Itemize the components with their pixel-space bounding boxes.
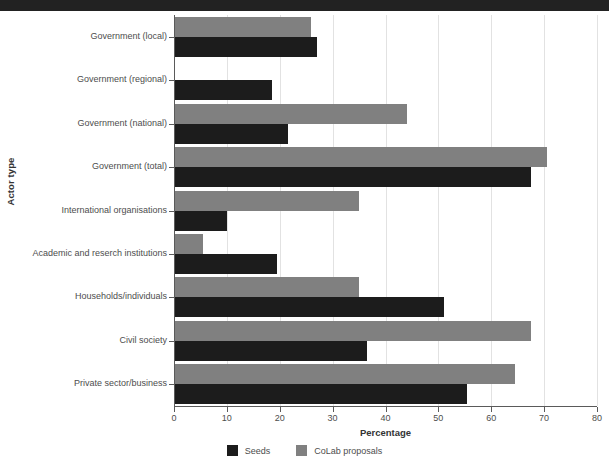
- y-tick-mark: [169, 80, 174, 81]
- legend-label: Seeds: [245, 446, 271, 456]
- bar-seeds: [174, 211, 227, 231]
- bar-colab: [174, 147, 547, 167]
- bar-colab: [174, 17, 311, 37]
- bar-seeds: [174, 254, 277, 274]
- gridline: [386, 15, 387, 406]
- bar-colab: [174, 277, 359, 297]
- x-tick-label: 60: [471, 413, 511, 423]
- x-tick-label: 50: [418, 413, 458, 423]
- category-label: Government (national): [0, 118, 167, 128]
- gridline: [491, 15, 492, 406]
- bar-seeds: [174, 341, 367, 361]
- y-tick-mark: [169, 297, 174, 298]
- x-axis-title: Percentage: [174, 427, 597, 438]
- bar-seeds: [174, 124, 288, 144]
- x-tick-mark: [333, 407, 334, 412]
- bar-colab: [174, 364, 515, 384]
- x-tick-label: 70: [524, 413, 564, 423]
- window-titlebar: [0, 0, 609, 11]
- legend-entry[interactable]: CoLab proposals: [296, 445, 382, 456]
- plot-area: [174, 15, 597, 406]
- bar-colab: [174, 234, 203, 254]
- category-label: Private sector/business: [0, 378, 167, 388]
- x-tick-mark: [544, 407, 545, 412]
- gridline: [597, 15, 598, 406]
- legend-entry[interactable]: Seeds: [227, 445, 271, 456]
- legend-swatch-icon: [296, 445, 307, 456]
- bar-seeds: [174, 384, 467, 404]
- y-axis-line: [174, 15, 175, 406]
- x-tick-mark: [386, 407, 387, 412]
- x-tick-mark: [597, 407, 598, 412]
- category-label: Government (total): [0, 161, 167, 171]
- x-tick-label: 20: [260, 413, 300, 423]
- bar-colab: [174, 104, 407, 124]
- bar-colab: [174, 321, 531, 341]
- y-tick-mark: [169, 341, 174, 342]
- bar-seeds: [174, 80, 272, 100]
- bar-seeds: [174, 297, 444, 317]
- x-tick-mark: [491, 407, 492, 412]
- bar-seeds: [174, 167, 531, 187]
- x-tick-label: 30: [313, 413, 353, 423]
- category-label: Academic and reserch institutions: [0, 248, 167, 258]
- x-tick-label: 0: [154, 413, 194, 423]
- x-tick-label: 80: [577, 413, 609, 423]
- x-tick-label: 10: [207, 413, 247, 423]
- y-tick-mark: [169, 167, 174, 168]
- bar-seeds: [174, 37, 317, 57]
- legend-swatch-icon: [227, 445, 238, 456]
- gridline: [438, 15, 439, 406]
- x-tick-mark: [438, 407, 439, 412]
- category-label: Government (local): [0, 31, 167, 41]
- bar-chart: Actor type 01020304050607080 Government …: [0, 11, 609, 462]
- y-tick-mark: [169, 211, 174, 212]
- y-tick-mark: [169, 124, 174, 125]
- x-tick-mark: [227, 407, 228, 412]
- y-tick-mark: [169, 254, 174, 255]
- legend-label: CoLab proposals: [314, 446, 382, 456]
- x-tick-label: 40: [366, 413, 406, 423]
- category-label: International organisations: [0, 205, 167, 215]
- category-label: Households/individuals: [0, 291, 167, 301]
- chart-legend: SeedsCoLab proposals: [0, 445, 609, 456]
- category-label: Government (regional): [0, 74, 167, 84]
- gridline: [544, 15, 545, 406]
- category-label: Civil society: [0, 335, 167, 345]
- bar-colab: [174, 191, 359, 211]
- x-tick-mark: [280, 407, 281, 412]
- x-tick-mark: [174, 407, 175, 412]
- y-tick-mark: [169, 384, 174, 385]
- y-tick-mark: [169, 37, 174, 38]
